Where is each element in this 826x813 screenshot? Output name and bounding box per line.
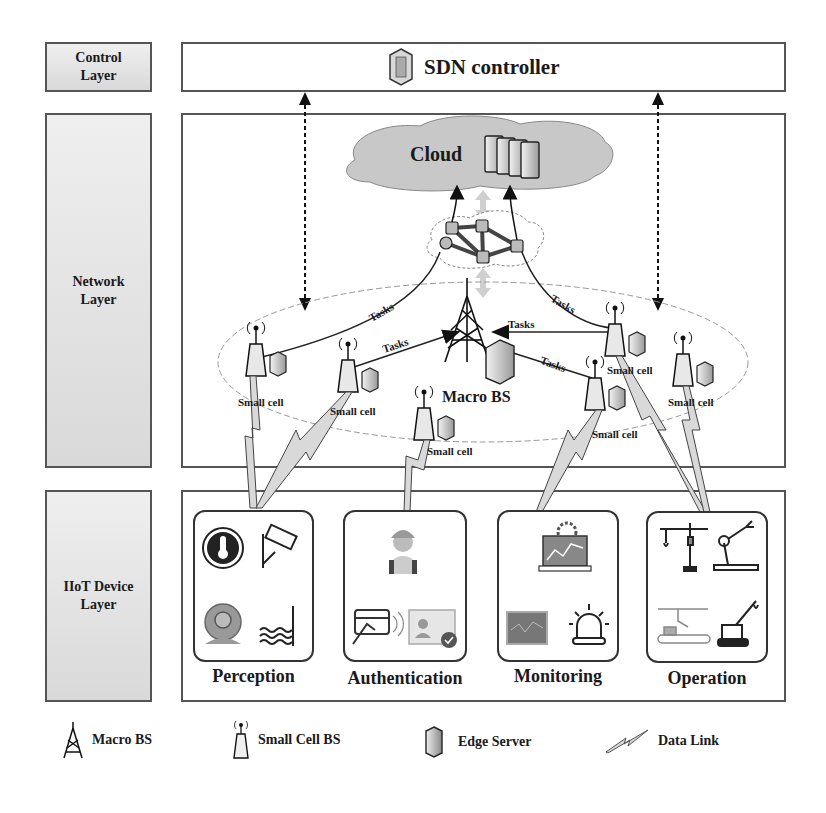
thermometer-icon xyxy=(203,528,243,568)
crawler-crane-icon xyxy=(718,601,758,646)
legend-data-link: Data Link xyxy=(604,728,719,754)
small-cell-label: Small cell xyxy=(592,428,638,440)
small-cell-label: Small cell xyxy=(238,396,284,408)
legend-label: Edge Server xyxy=(458,734,531,750)
cloud-title: Cloud xyxy=(410,143,462,166)
macro-edge-server-icon xyxy=(486,340,514,384)
operation-group xyxy=(646,511,768,663)
legend-macro-bs: Macro BS xyxy=(62,720,152,760)
monitor-screen-icon xyxy=(507,612,547,644)
id-badge-icon xyxy=(409,610,457,648)
monitoring-group xyxy=(497,510,619,662)
legend-edge-server: Edge Server xyxy=(424,725,531,759)
legend-small-cell-bs: Small Cell BS xyxy=(232,720,340,760)
small-cell-label: Small cell xyxy=(668,396,714,408)
edge-server-icon xyxy=(424,725,444,759)
dashboard-laptop-icon xyxy=(539,523,591,571)
conveyor-icon xyxy=(658,609,710,643)
alarm-light-icon xyxy=(569,604,609,644)
legend-label: Small Cell BS xyxy=(258,732,340,748)
webcam-icon xyxy=(205,604,241,644)
perception-title: Perception xyxy=(193,666,314,687)
worker-icon xyxy=(389,530,417,574)
macro-bs-label: Macro BS xyxy=(442,388,511,406)
robot-arm-icon xyxy=(714,521,758,570)
cloud-servers-icon xyxy=(485,136,539,178)
cloud xyxy=(347,116,613,191)
coverage-area xyxy=(218,282,748,442)
perception-group xyxy=(193,510,314,662)
authentication-group xyxy=(343,510,467,662)
legend-label: Macro BS xyxy=(92,732,152,748)
card-reader-icon xyxy=(353,610,403,644)
small-cell-label: Small cell xyxy=(607,364,653,376)
macro-bs-icon xyxy=(62,720,84,760)
water-level-icon xyxy=(260,606,293,646)
data-links xyxy=(245,356,710,512)
small-cell-label: Small cell xyxy=(330,405,376,417)
tower-crane-icon xyxy=(660,523,708,571)
legend-label: Data Link xyxy=(658,733,719,749)
tasks-label: Tasks xyxy=(508,318,535,330)
authentication-title: Authentication xyxy=(330,668,480,689)
small-cell-label: Small cell xyxy=(427,445,473,457)
monitoring-title: Monitoring xyxy=(497,666,619,687)
data-link-icon xyxy=(604,728,650,754)
operation-title: Operation xyxy=(646,668,768,689)
small-cell-bs-icon xyxy=(232,720,250,760)
cctv-camera-icon xyxy=(263,525,297,568)
